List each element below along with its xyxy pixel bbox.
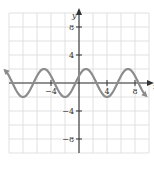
sine-graph: −44884−4−8 x y — [0, 0, 154, 169]
y-axis-arrow-icon — [76, 8, 82, 15]
x-tick-label: 8 — [132, 87, 137, 96]
y-axis-label: y — [71, 11, 77, 20]
y-tick-label: 8 — [69, 23, 74, 32]
y-tick-label: −8 — [62, 135, 74, 144]
y-tick-label: −4 — [62, 107, 74, 116]
x-axis-label: x — [153, 82, 154, 91]
axes — [9, 8, 154, 153]
x-tick-label: −4 — [45, 87, 57, 96]
y-tick-label: 4 — [69, 51, 74, 60]
x-tick-label: 4 — [104, 87, 109, 96]
